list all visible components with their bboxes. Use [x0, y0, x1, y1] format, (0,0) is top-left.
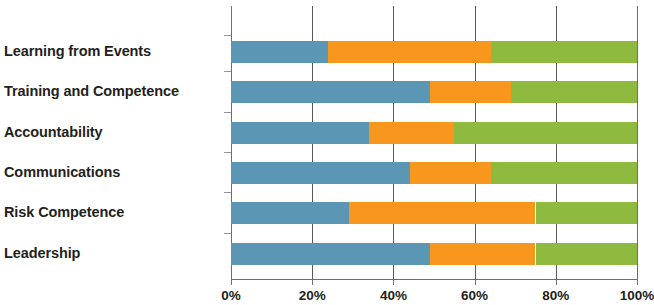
y-axis-tick	[224, 71, 231, 72]
x-axis-line	[231, 279, 637, 280]
x-axis-tick-label: 0%	[221, 289, 241, 303]
bar-segment-green	[536, 243, 638, 265]
bar-segment-green	[454, 122, 637, 144]
y-axis-tick	[224, 152, 231, 153]
x-axis-tick	[475, 279, 476, 285]
bar-row	[231, 41, 637, 63]
x-axis-tick-label: 60%	[461, 289, 488, 303]
bar-segment-blue	[231, 243, 430, 265]
bar-row	[231, 243, 637, 265]
bar-segment-orange	[430, 243, 536, 265]
x-axis-tick-label: 20%	[299, 289, 326, 303]
bar-segment-blue	[231, 81, 430, 103]
x-axis-tick-label: 40%	[380, 289, 407, 303]
x-axis-tick-label: 100%	[620, 289, 654, 303]
y-axis-tick	[224, 112, 231, 113]
bar-segment-blue	[231, 202, 349, 224]
y-axis-tick	[224, 233, 231, 234]
category-label: Accountability	[4, 125, 204, 140]
bar-segment-orange	[430, 81, 511, 103]
bar-row	[231, 81, 637, 103]
x-axis-tick	[231, 279, 232, 285]
bar-segment-orange	[410, 162, 491, 184]
y-axis-tick	[224, 192, 231, 193]
bar-segment-orange	[349, 202, 536, 224]
bar-segment-blue	[231, 122, 369, 144]
bar-segment-green	[511, 81, 637, 103]
bar-segment-orange	[328, 41, 490, 63]
bar-segment-green	[491, 162, 637, 184]
bar-row	[231, 122, 637, 144]
bar-row	[231, 202, 637, 224]
category-axis-labels: Learning from EventsTraining and Compete…	[0, 0, 222, 279]
category-label: Training and Competence	[4, 84, 204, 99]
category-label: Leadership	[4, 246, 204, 261]
x-axis-tick	[637, 279, 638, 285]
bar-segment-green	[491, 41, 637, 63]
category-label: Communications	[4, 165, 204, 180]
category-label: Risk Competence	[4, 205, 204, 220]
x-axis-tick	[556, 279, 557, 285]
bar-segment-green	[536, 202, 638, 224]
gridline	[637, 6, 638, 279]
bar-segment-blue	[231, 41, 328, 63]
category-label: Learning from Events	[4, 44, 204, 59]
x-axis-tick	[393, 279, 394, 285]
bar-row	[231, 162, 637, 184]
y-axis-tick	[224, 35, 231, 36]
bar-segment-orange	[369, 122, 454, 144]
bar-segment-blue	[231, 162, 410, 184]
x-axis-tick-label: 80%	[542, 289, 569, 303]
x-axis-tick	[312, 279, 313, 285]
plot-area: 0%20%40%60%80%100%	[231, 6, 637, 279]
